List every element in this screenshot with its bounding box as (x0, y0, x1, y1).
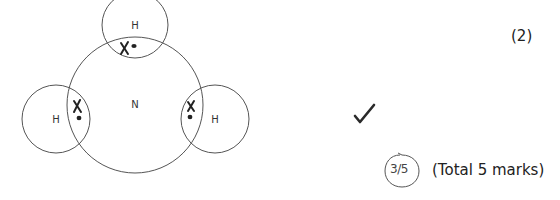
atom-label-h-right: H (211, 114, 219, 125)
atom-label-h-left: H (52, 114, 60, 125)
score-value: 3/5 (390, 162, 408, 176)
dot-electron-icon (188, 115, 193, 119)
atom-label-n: N (131, 99, 138, 110)
total-marks: (Total 5 marks) (432, 161, 544, 179)
cross-electron-icon (74, 100, 81, 112)
dot-electron-icon (131, 44, 136, 48)
question-marks: (2) (511, 27, 532, 45)
dot-electron-icon (77, 116, 82, 120)
cross-electron-icon (188, 101, 194, 111)
atom-label-h-top: H (131, 20, 139, 31)
cross-electron-icon (121, 42, 128, 54)
checkmark-icon (350, 100, 378, 128)
ammonia-dot-cross-diagram: N H H H (0, 0, 280, 200)
